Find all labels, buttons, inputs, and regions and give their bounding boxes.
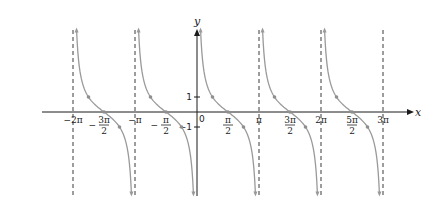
svg-text:2: 2 (163, 126, 169, 136)
curve-arrow-down-icon (377, 192, 381, 197)
svg-text:−: − (150, 120, 158, 130)
curve-arrow-down-icon (253, 192, 257, 197)
svg-text:−: − (88, 120, 96, 130)
marked-point (180, 125, 184, 129)
curve-arrow-down-icon (191, 192, 195, 197)
marked-point (242, 125, 246, 129)
marked-point (366, 125, 370, 129)
curve-arrow-up-icon (199, 28, 203, 33)
marked-point (164, 110, 168, 114)
x-tick-label: −π (128, 115, 142, 125)
marked-point (118, 125, 122, 129)
cotangent-graph: x y 0 1−1 −2π3π2−−ππ2−π2π3π22π5π23π (0, 0, 421, 208)
marked-point (211, 95, 215, 99)
axes: x y 0 (42, 15, 421, 196)
marked-point (288, 110, 292, 114)
curve-arrow-up-icon (75, 28, 79, 33)
marked-point (273, 95, 277, 99)
curve-arrow-up-icon (261, 28, 265, 33)
svg-text:3π: 3π (98, 115, 110, 125)
curve-arrow-down-icon (315, 192, 319, 197)
svg-text:2: 2 (101, 126, 107, 136)
x-axis-label: x (415, 106, 421, 119)
curve-arrow-up-icon (323, 28, 327, 33)
marked-point (87, 95, 91, 99)
svg-text:π: π (163, 115, 169, 125)
svg-text:2: 2 (225, 126, 231, 136)
svg-text:π: π (225, 115, 231, 125)
x-tick-fraction-label: 3π2 (284, 115, 296, 136)
curve-arrow-down-icon (129, 192, 133, 197)
origin-label: 0 (199, 114, 205, 124)
marked-point (304, 125, 308, 129)
x-axis-arrow-icon (407, 109, 414, 115)
svg-text:3π: 3π (284, 115, 296, 125)
y-axis-label: y (193, 15, 201, 28)
svg-text:5π: 5π (346, 115, 358, 125)
marked-point (335, 95, 339, 99)
curve-arrow-up-icon (137, 28, 141, 33)
marked-point (102, 110, 106, 114)
y-tick-label: 1 (186, 92, 192, 102)
x-tick-fraction-label: 5π2 (346, 115, 358, 136)
x-tick-label: π (256, 115, 262, 125)
x-tick-label: 3π (377, 115, 389, 125)
marked-point (149, 95, 153, 99)
x-tick-fraction-label: π2 (223, 115, 233, 136)
svg-text:2: 2 (287, 126, 293, 136)
marked-point (350, 110, 354, 114)
svg-text:2: 2 (349, 126, 355, 136)
marked-point (226, 110, 230, 114)
x-tick-fraction-label: π2− (150, 115, 171, 136)
x-tick-label: −2π (63, 115, 82, 125)
x-tick-label: 2π (315, 115, 327, 125)
x-tick-fraction-label: 3π2− (88, 115, 109, 136)
